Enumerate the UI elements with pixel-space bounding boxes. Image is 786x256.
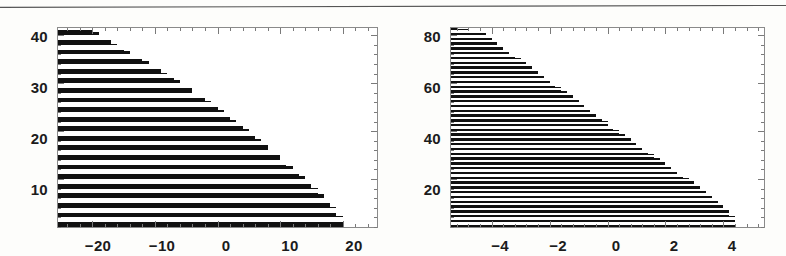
tick-mark (355, 224, 356, 227)
y-tick-label: 20 (424, 181, 441, 198)
tick-mark (58, 64, 61, 65)
tick-mark (167, 28, 168, 31)
tick-mark (596, 28, 597, 31)
tick-mark (451, 122, 454, 123)
tick-mark (761, 45, 764, 46)
tick-mark (371, 131, 377, 132)
y-tick-label: 30 (31, 79, 48, 96)
tick-mark (58, 150, 61, 151)
tick-mark (515, 28, 516, 31)
tick-mark (761, 74, 764, 75)
tick-mark (689, 28, 690, 31)
tick-mark (243, 224, 244, 227)
tick-mark (58, 83, 64, 84)
tick-mark (735, 28, 736, 31)
tick-mark (192, 28, 193, 31)
tick-mark (451, 227, 454, 228)
tick-mark (561, 224, 562, 227)
tick-mark (480, 224, 481, 227)
tick-mark (230, 28, 231, 31)
tick-mark (105, 28, 106, 31)
tick-mark (305, 224, 306, 227)
tick-mark (268, 224, 269, 227)
tick-mark (374, 64, 377, 65)
tick-mark (451, 141, 454, 142)
tick-mark (451, 189, 454, 190)
tick-mark (105, 224, 106, 227)
tick-mark (451, 35, 457, 36)
tick-mark (689, 224, 690, 227)
tick-mark (58, 93, 61, 94)
tick-mark (180, 28, 181, 31)
tick-mark (155, 28, 156, 34)
y-tick-label: 80 (424, 28, 441, 45)
tick-mark (117, 28, 118, 31)
tick-mark (758, 179, 764, 180)
tick-mark (58, 45, 61, 46)
tick-mark (677, 224, 678, 227)
figure-page: 40302010 −20−1001020 80604020 −4−2024 (0, 0, 786, 256)
tick-mark (700, 224, 701, 227)
tick-mark (280, 28, 281, 34)
tick-mark (451, 131, 457, 132)
tick-mark (205, 28, 206, 31)
tick-mark (451, 208, 454, 209)
left-plot-frame (57, 27, 378, 228)
tick-mark (58, 131, 64, 132)
tick-mark (67, 28, 68, 31)
y-tick-label: 10 (31, 181, 48, 198)
tick-mark (451, 54, 454, 55)
tick-mark (293, 28, 294, 31)
tick-mark (677, 28, 678, 31)
tick-mark (374, 45, 377, 46)
tick-mark (584, 28, 585, 31)
tick-mark (631, 28, 632, 31)
tick-mark (58, 217, 61, 218)
tick-mark (130, 224, 131, 227)
tick-mark (761, 112, 764, 113)
tick-mark (330, 224, 331, 227)
tick-mark (374, 189, 377, 190)
tick-mark (723, 221, 724, 227)
tick-mark (371, 179, 377, 180)
tick-mark (723, 28, 724, 34)
tick-mark (761, 122, 764, 123)
tick-mark (305, 28, 306, 31)
tick-mark (58, 141, 61, 142)
tick-mark (619, 224, 620, 227)
tick-mark (492, 221, 493, 227)
tick-mark (758, 131, 764, 132)
tick-mark (92, 221, 93, 227)
right-plot-frame (450, 27, 765, 228)
tick-mark (538, 224, 539, 227)
tick-mark (735, 224, 736, 227)
tick-mark (167, 224, 168, 227)
tick-mark (761, 93, 764, 94)
tick-mark (761, 54, 764, 55)
x-tick-label: 10 (281, 237, 298, 254)
x-tick-label: 4 (728, 237, 737, 254)
tick-mark (80, 28, 81, 31)
tick-mark (374, 198, 377, 199)
tick-mark (318, 224, 319, 227)
tick-mark (155, 221, 156, 227)
tick-mark (58, 74, 61, 75)
tick-mark (468, 28, 469, 31)
tick-mark (218, 28, 219, 34)
tick-mark (561, 28, 562, 31)
x-tick-label: −10 (149, 237, 175, 254)
tick-mark (747, 28, 748, 31)
tick-mark (374, 141, 377, 142)
tick-mark (58, 189, 61, 190)
tick-mark (58, 35, 64, 36)
tick-mark (368, 224, 369, 227)
tick-mark (374, 93, 377, 94)
tick-mark (761, 102, 764, 103)
tick-mark (631, 224, 632, 227)
tick-mark (451, 160, 454, 161)
x-tick-label: 20 (345, 237, 362, 254)
tick-mark (205, 224, 206, 227)
tick-mark (58, 198, 61, 199)
tick-mark (642, 224, 643, 227)
tick-mark (192, 224, 193, 227)
